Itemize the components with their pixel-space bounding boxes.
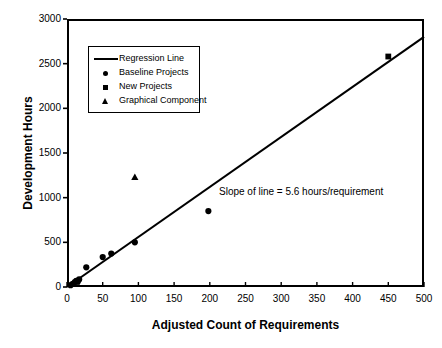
x-axis-title: Adjusted Count of Requirements (67, 318, 424, 332)
legend-label: Regression Line (119, 53, 184, 64)
x-tick-label: 350 (297, 294, 337, 304)
square-marker (74, 279, 80, 285)
x-tick-label: 100 (118, 294, 158, 304)
x-tick-label: 200 (190, 294, 230, 304)
triangle-marker (131, 174, 138, 180)
x-axis-ticks (67, 282, 424, 287)
y-axis-ticks (63, 19, 67, 287)
square-marker-icon (93, 81, 119, 93)
legend-label: Baseline Projects (119, 67, 189, 78)
x-tick-label: 450 (368, 294, 408, 304)
regression-line-icon (93, 53, 119, 65)
scatter-chart: 050010001500200025003000 050100150200250… (0, 0, 442, 348)
x-tick-label: 500 (404, 294, 442, 304)
triangle-marker-icon (93, 95, 119, 107)
legend-label: New Projects (119, 81, 172, 92)
circle-marker (100, 254, 106, 260)
y-tick-label: 0 (21, 282, 61, 292)
x-tick-label: 50 (83, 294, 123, 304)
y-axis-title: Development Hours (21, 63, 35, 243)
circle-marker (83, 264, 89, 270)
circle-marker (132, 239, 138, 245)
legend-label: Graphical Component (119, 95, 207, 106)
legend-item-regression-line: Regression Line (93, 52, 194, 65)
y-tick-label: 3000 (21, 14, 61, 24)
legend: Regression Line Baseline Projects New Pr… (88, 46, 200, 113)
square-marker (385, 54, 391, 60)
slope-annotation: Slope of line = 5.6 hours/requirement (219, 186, 383, 197)
legend-item-graphical-component: Graphical Component (93, 94, 194, 107)
circle-marker-icon (93, 67, 119, 79)
circle-marker (108, 250, 114, 256)
x-tick-label: 300 (261, 294, 301, 304)
legend-item-new-projects: New Projects (93, 80, 194, 93)
circle-marker (205, 208, 211, 214)
x-tick-label: 400 (333, 294, 373, 304)
x-tick-label: 250 (226, 294, 266, 304)
x-tick-label: 150 (154, 294, 194, 304)
x-tick-label: 0 (47, 294, 87, 304)
legend-item-baseline-projects: Baseline Projects (93, 66, 194, 79)
